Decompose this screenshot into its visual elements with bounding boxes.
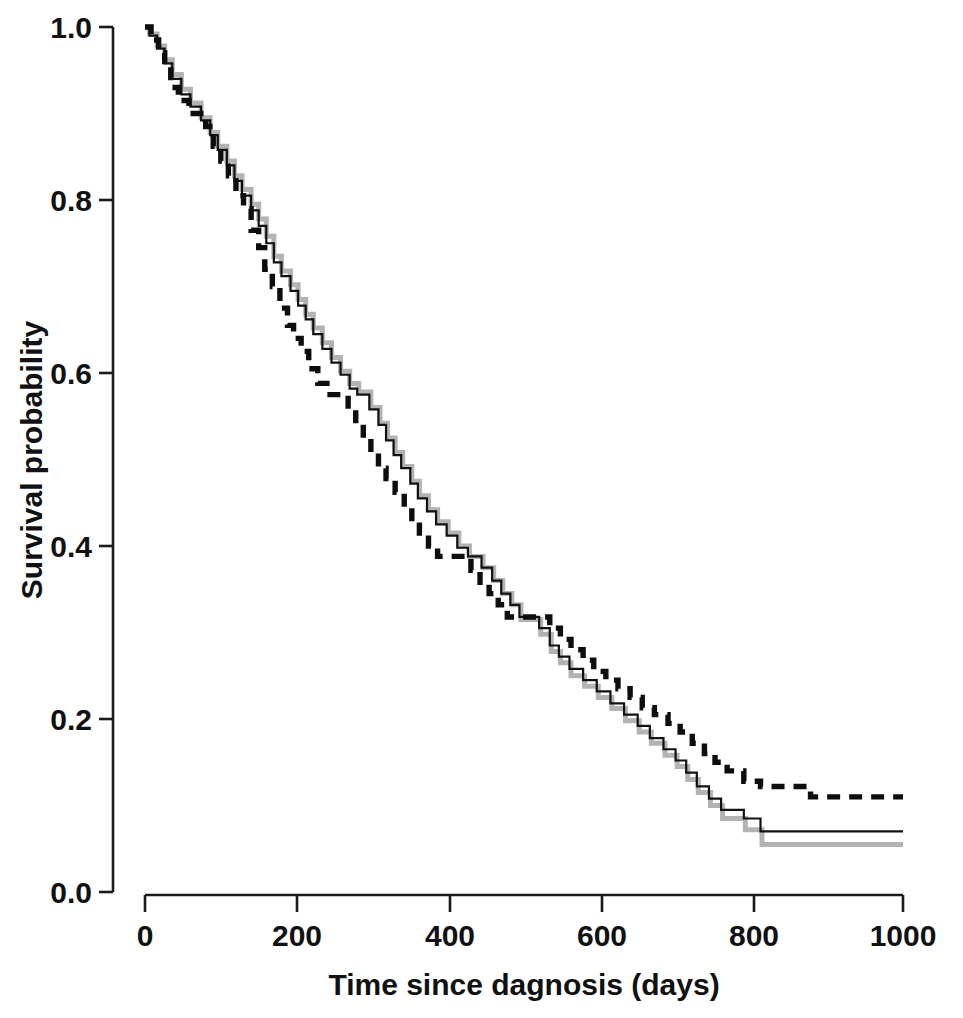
survival-curve-gray [145, 27, 903, 844]
y-tick-label-0-2: 0.2 [50, 703, 92, 736]
x-tick-label-0: 0 [137, 919, 154, 952]
survival-curve-dashed [145, 27, 903, 797]
curves-group [145, 27, 903, 844]
y-axis-ticks [99, 27, 113, 892]
chart-canvas: 1.0 0.8 0.6 0.4 0.2 0.0 0 200 400 600 80… [0, 0, 963, 1018]
x-tick-label-400: 400 [425, 919, 475, 952]
y-tick-label-0-6: 0.6 [50, 357, 92, 390]
figure-caption [8, 1005, 958, 1018]
survival-curve-solid [145, 27, 903, 831]
y-tick-label-0-4: 0.4 [50, 530, 92, 563]
x-axis-title: Time since dagnosis (days) [328, 968, 719, 1001]
y-tick-label-0-8: 0.8 [50, 184, 92, 217]
y-tick-label-0-0: 0.0 [50, 876, 92, 909]
x-axis-ticks [145, 895, 903, 912]
x-tick-label-800: 800 [729, 919, 779, 952]
x-tick-label-1000: 1000 [870, 919, 937, 952]
x-tick-label-200: 200 [272, 919, 322, 952]
y-axis-title: Survival probability [15, 320, 48, 599]
survival-curve-figure: 1.0 0.8 0.6 0.4 0.2 0.0 0 200 400 600 80… [0, 0, 963, 1018]
x-tick-label-600: 600 [577, 919, 627, 952]
y-tick-label-1-0: 1.0 [50, 11, 92, 44]
